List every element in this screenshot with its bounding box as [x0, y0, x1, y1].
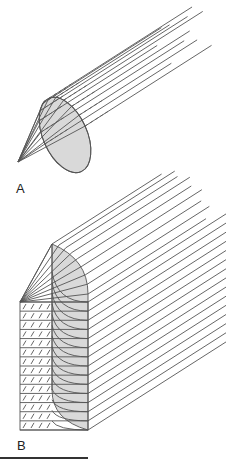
- hatch-mark: [23, 405, 26, 410]
- hatch-mark: [39, 304, 42, 309]
- hatch-mark: [31, 386, 34, 391]
- hatch-mark: [47, 341, 50, 346]
- hatch-mark: [31, 414, 34, 419]
- parallel-ray: [88, 287, 226, 375]
- parallel-ray: [40, 17, 188, 111]
- parallel-ray: [79, 40, 197, 115]
- elliptical-section: [29, 90, 102, 181]
- hatch-mark: [31, 395, 34, 400]
- parallel-ray: [72, 31, 190, 106]
- parallel-ray: [88, 305, 226, 393]
- hatch-mark: [47, 377, 50, 382]
- hatch-mark: [31, 359, 34, 364]
- panel-b-diagram: [20, 171, 226, 430]
- parallel-ray: [88, 315, 226, 403]
- hatch-mark: [47, 313, 50, 318]
- hatch-mark: [23, 313, 26, 318]
- hatch-mark: [23, 414, 26, 419]
- parallel-ray: [88, 342, 226, 430]
- hatch-mark: [23, 386, 26, 391]
- hatch-mark: [31, 313, 34, 318]
- hatch-mark: [39, 368, 42, 373]
- hatch-mark: [39, 313, 42, 318]
- hatch-mark: [31, 322, 34, 327]
- hatch-mark: [31, 304, 34, 309]
- fan-ray: [20, 244, 52, 302]
- parallel-ray: [88, 278, 226, 366]
- parallel-ray: [88, 232, 226, 320]
- hatch-mark: [23, 377, 26, 382]
- parallel-ray: [88, 260, 226, 348]
- hatch-mark: [39, 377, 42, 382]
- hatch-mark: [47, 350, 50, 355]
- hatch-mark: [47, 423, 50, 428]
- hatch-mark: [39, 414, 42, 419]
- hatch-mark: [31, 405, 34, 410]
- hatch-mark: [39, 405, 42, 410]
- parallel-ray: [88, 251, 226, 339]
- parallel-ray: [88, 324, 226, 412]
- hatch-mark: [39, 350, 42, 355]
- hatch-mark: [47, 405, 50, 410]
- parallel-ray: [41, 41, 184, 132]
- hatch-mark: [47, 368, 50, 373]
- panel-a-label: A: [16, 181, 25, 196]
- hatch-mark: [23, 341, 26, 346]
- hatch-mark: [47, 414, 50, 419]
- parallel-ray: [88, 223, 226, 311]
- parallel-ray: [88, 296, 226, 384]
- hatch-mark: [23, 368, 26, 373]
- hatch-mark: [39, 423, 42, 428]
- hatch-mark: [31, 331, 34, 336]
- hatch-mark: [39, 359, 42, 364]
- hatch-mark: [31, 368, 34, 373]
- hatch-mark: [23, 395, 26, 400]
- hatch-mark: [31, 341, 34, 346]
- figure-diagram: [0, 0, 237, 459]
- hatch-mark: [47, 331, 50, 336]
- parallel-ray: [52, 174, 162, 244]
- hatch-mark: [23, 304, 26, 309]
- parallel-ray: [88, 214, 226, 302]
- hatch-mark: [31, 423, 34, 428]
- hatch-mark: [23, 423, 26, 428]
- hatch-mark: [39, 341, 42, 346]
- hatch-mark: [31, 350, 34, 355]
- hatch-mark: [39, 386, 42, 391]
- parallel-ray: [88, 269, 226, 357]
- hatch-mark: [31, 377, 34, 382]
- parallel-ray: [43, 28, 161, 103]
- parallel-ray: [64, 11, 203, 100]
- parallel-ray: [88, 241, 226, 329]
- hatch-mark: [47, 322, 50, 327]
- hatch-mark: [39, 322, 42, 327]
- hatch-mark: [47, 395, 50, 400]
- hatch-mark: [23, 350, 26, 355]
- hatch-mark: [47, 386, 50, 391]
- hatch-mark: [39, 331, 42, 336]
- hatch-mark: [47, 359, 50, 364]
- panel-a-diagram: [18, 7, 212, 180]
- hatch-mark: [23, 359, 26, 364]
- parallel-ray: [49, 7, 192, 98]
- parallel-ray: [88, 333, 226, 421]
- parallel-ray: [82, 190, 202, 267]
- panel-b-label: B: [17, 438, 26, 453]
- hatch-mark: [23, 331, 26, 336]
- hatch-mark: [23, 322, 26, 327]
- parallel-ray: [72, 177, 190, 252]
- hatch-mark: [39, 395, 42, 400]
- hatch-mark: [47, 304, 50, 309]
